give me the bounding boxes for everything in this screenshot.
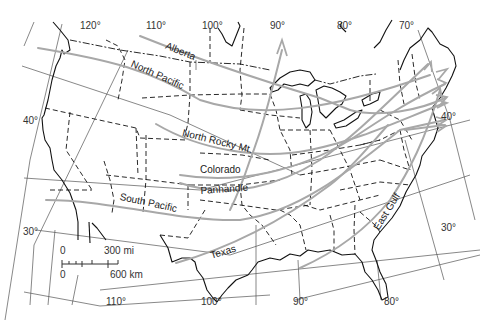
longitude-label-110: 110° [146, 20, 166, 31]
track-north-pacific [38, 48, 430, 110]
longitude-label-90: 90° [270, 20, 285, 31]
latitude-label-left-40: 40° [23, 115, 38, 126]
scale-zero-km: 0 [60, 269, 66, 280]
longitude-label-bottom-100: 100° [201, 296, 222, 307]
scale-miles-label: 300 mi [104, 245, 134, 256]
longitude-label-bottom-110: 110° [106, 296, 126, 307]
longitude-label-100: 100° [202, 20, 223, 31]
latitude-label-right-30: 30° [441, 222, 456, 233]
scale-bar: 0 300 mi 0 600 km [60, 245, 160, 285]
track-east-gulf [300, 90, 440, 268]
longitude-label-70: 70° [399, 20, 414, 31]
longitude-label-bottom-90: 90° [293, 296, 308, 307]
scale-zero-miles: 0 [60, 245, 66, 256]
track-label-colorado: Colorado [200, 164, 241, 175]
longitude-label-80: 80° [337, 20, 352, 31]
longitude-label-bottom-80: 80° [384, 296, 399, 307]
longitude-label-120: 120° [80, 20, 101, 31]
scale-km-label: 600 km [110, 269, 143, 280]
latitude-label-left-30: 30° [23, 226, 38, 237]
latitude-label-right-40: 40° [441, 111, 456, 122]
